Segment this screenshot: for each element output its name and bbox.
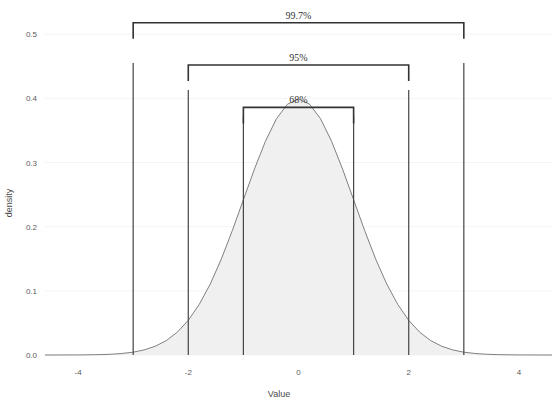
x-tick-label: 0	[296, 368, 301, 377]
x-tick-label: 4	[517, 368, 522, 377]
y-tick-label: 0.5	[26, 30, 38, 39]
x-tick-label: -4	[75, 368, 83, 377]
x-tick-label: -2	[185, 368, 193, 377]
bracket-label: 68%	[289, 94, 307, 105]
bracket-label: 99.7%	[286, 10, 312, 21]
y-tick-label: 0.1	[26, 287, 38, 296]
y-tick-label: 0.3	[26, 159, 38, 168]
y-tick-label: 0.4	[26, 94, 38, 103]
x-tick-label: 2	[406, 368, 411, 377]
density-chart: 68%95%99.7% -4-2024 0.00.10.20.30.40.5 V…	[0, 0, 558, 407]
x-axis-title: Value	[268, 389, 290, 399]
y-tick-label: 0.2	[26, 223, 38, 232]
y-tick-label: 0.0	[26, 351, 38, 360]
bracket-label: 95%	[289, 52, 307, 63]
y-axis-title: density	[4, 188, 14, 217]
